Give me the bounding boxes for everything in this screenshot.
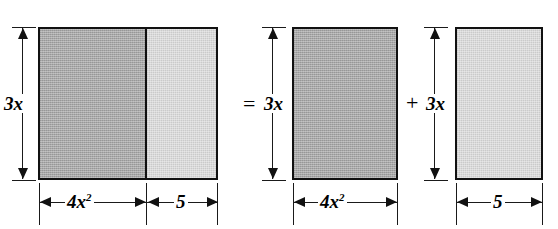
- first-term-width-ext-right: [397, 183, 398, 225]
- area-model-figure: 3x 4x2 5 = 3x 4x2 + 3x 5: [0, 0, 558, 229]
- second-term-height-label: 3x: [424, 94, 447, 113]
- combined-width2-label: 5: [174, 192, 188, 211]
- combined-width1-ext-right: [146, 183, 147, 225]
- combined-height-ext-bottom: [12, 180, 36, 181]
- first-term-width-arrow-right-icon: [386, 197, 397, 207]
- second-term-width-ext-right: [542, 183, 543, 225]
- second-term-width-arrow-right-icon: [531, 197, 542, 207]
- combined-rect-right-part: [145, 27, 218, 180]
- combined-rect-left-part: [38, 27, 147, 180]
- combined-width2-arrow-right-icon: [207, 197, 218, 207]
- first-term-width-base: 4x: [320, 191, 339, 212]
- second-term-height-arrow-down-icon: [430, 168, 440, 179]
- first-term-height-arrow-down-icon: [268, 168, 278, 179]
- equals-operator: =: [243, 93, 255, 115]
- first-term-width-exponent: 2: [339, 191, 345, 203]
- combined-width1-exponent: 2: [86, 191, 92, 203]
- combined-width1-label: 4x2: [65, 192, 94, 211]
- plus-operator: +: [406, 92, 418, 114]
- second-term-height-ext-bottom: [424, 180, 448, 181]
- combined-width1-arrow-right-icon: [135, 197, 146, 207]
- first-term-height-ext-bottom: [262, 180, 286, 181]
- combined-height-label: 3x: [2, 94, 25, 113]
- combined-width1-arrow-left-icon: [40, 197, 51, 207]
- second-term-height-arrow-up-icon: [430, 28, 440, 39]
- second-term-width-label: 5: [491, 192, 505, 211]
- first-term-width-arrow-left-icon: [294, 197, 305, 207]
- first-term-height-arrow-up-icon: [268, 28, 278, 39]
- second-term-width-arrow-left-icon: [457, 197, 468, 207]
- first-term-width-label: 4x2: [318, 192, 347, 211]
- combined-rect-divider: [145, 27, 147, 180]
- first-term-height-label: 3x: [262, 94, 285, 113]
- second-term-rect: [455, 27, 543, 180]
- combined-height-arrow-up-icon: [18, 28, 28, 39]
- combined-width2-arrow-left-icon: [148, 197, 159, 207]
- combined-width1-base: 4x: [67, 191, 86, 212]
- first-term-rect: [292, 27, 398, 180]
- combined-height-arrow-down-icon: [18, 168, 28, 179]
